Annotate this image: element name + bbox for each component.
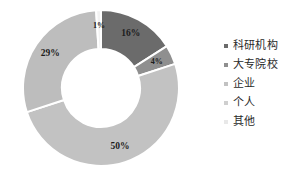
slice-value-label-3: 29% — [41, 48, 60, 58]
slice-value-label-1: 4% — [151, 57, 163, 66]
donut-chart-plot-area: 16%4%50%29%1% — [22, 9, 180, 167]
donut-chart-svg: 16%4%50%29%1% — [22, 9, 180, 167]
square-marker-icon-2 — [224, 82, 228, 86]
legend-item-3[interactable]: 个人 — [224, 93, 293, 112]
slice-value-label-2: 50% — [111, 141, 130, 151]
legend-label-4: 其他 — [233, 116, 255, 127]
legend-label-2: 企业 — [233, 78, 255, 89]
square-marker-icon-4 — [224, 120, 228, 124]
square-marker-icon-1 — [224, 63, 228, 67]
legend-item-0[interactable]: 科研机构 — [224, 36, 293, 55]
legend-item-1[interactable]: 大专院校 — [224, 55, 293, 74]
square-marker-icon-0 — [224, 44, 228, 48]
legend-label-3: 个人 — [233, 97, 255, 108]
legend-item-2[interactable]: 企业 — [224, 74, 293, 93]
chart-legend: 科研机构 大专院校 企业 个人 其他 — [224, 36, 293, 131]
legend-label-0: 科研机构 — [233, 40, 278, 51]
donut-chart-figure: 16%4%50%29%1% 科研机构 大专院校 企业 个人 其他 — [0, 0, 293, 179]
legend-item-4[interactable]: 其他 — [224, 112, 293, 131]
slice-个人[interactable] — [23, 10, 99, 112]
slice-value-label-4: 1% — [93, 21, 105, 30]
donut-slices-group — [23, 10, 179, 166]
square-marker-icon-3 — [224, 101, 228, 105]
slice-value-label-0: 16% — [121, 28, 140, 38]
legend-label-1: 大专院校 — [233, 59, 278, 70]
